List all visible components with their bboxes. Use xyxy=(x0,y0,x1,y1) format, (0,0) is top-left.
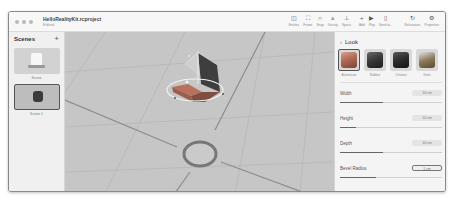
cube-icon xyxy=(341,52,357,68)
minimize-button[interactable] xyxy=(22,20,26,24)
material-swatch xyxy=(338,49,360,71)
toolbar-label: Space xyxy=(342,23,351,27)
sidebar-header: Scenes + xyxy=(9,32,64,46)
toolbar-snap-button[interactable]: ∩ Snap xyxy=(314,14,325,31)
material-label: Aluminium xyxy=(342,73,357,77)
material-chrome[interactable]: Chrome xyxy=(390,49,412,77)
scene-thumbnail xyxy=(14,48,60,74)
selected-cube xyxy=(167,51,224,102)
toolbar-label: Send to... xyxy=(379,23,393,27)
toolbar-label: Gravity xyxy=(328,23,338,27)
toolbar-send-button[interactable]: ▯ Send to... xyxy=(377,14,395,31)
material-aluminium[interactable]: Aluminium xyxy=(338,49,360,77)
height-property: Height 10 cm xyxy=(335,115,446,130)
material-picker: Aluminium Rubber Chrome Satin xyxy=(335,49,446,77)
toolbar-label: Properties xyxy=(424,23,439,27)
close-button[interactable] xyxy=(15,20,19,24)
toolbar-label: Frame xyxy=(303,23,312,27)
depth-slider[interactable] xyxy=(340,150,442,155)
material-rubber[interactable]: Rubber xyxy=(364,49,386,77)
depth-field[interactable]: 10 cm xyxy=(412,140,442,146)
toolbar: ◫ Entities ⛶ Frame ∩ Snap ⩓ Gravity ⊥ Sp… xyxy=(287,14,441,31)
toolbar-frame-button[interactable]: ⛶ Frame xyxy=(301,14,314,31)
toolbar-label: Play xyxy=(369,23,375,27)
toolbar-entities-button[interactable]: ◫ Entities xyxy=(287,14,301,31)
title-bar: HelloRealityKit.rcproject Edited ◫ Entit… xyxy=(9,12,445,32)
depth-property: Depth 10 cm xyxy=(335,140,446,155)
width-field[interactable]: 10 cm xyxy=(412,90,442,96)
scene-label: Scene xyxy=(14,76,59,80)
material-label: Chrome xyxy=(395,73,406,77)
toolbar-gravity-button[interactable]: ⩓ Gravity xyxy=(326,14,340,31)
inspector-panel: ‹ Look Aluminium Rubber Chrome xyxy=(334,32,446,192)
inspector-header: ‹ Look xyxy=(335,32,446,49)
sidebar-icon: ◫ xyxy=(291,14,297,23)
material-satin[interactable]: Satin xyxy=(416,49,438,77)
scene-label: Scene 1 xyxy=(14,112,59,116)
add-scene-button[interactable]: + xyxy=(54,35,59,43)
back-icon[interactable]: ‹ xyxy=(340,39,342,45)
depth-label: Depth xyxy=(340,141,352,146)
window-controls xyxy=(15,20,33,24)
toolbar-play-button[interactable]: ▶ Play xyxy=(367,14,377,31)
toolbar-label: Add xyxy=(359,23,365,27)
divider xyxy=(340,82,442,83)
anchor-plane-icon xyxy=(28,65,45,68)
gear-icon: ⚙ xyxy=(429,14,434,23)
scenes-sidebar: Scenes + Scene Scene 1 xyxy=(9,32,65,192)
cube-icon xyxy=(367,52,383,68)
height-field[interactable]: 10 cm xyxy=(412,115,442,121)
gravity-icon: ⩓ xyxy=(331,14,334,23)
toolbar-space-button[interactable]: ⊥ Space xyxy=(340,14,353,31)
height-label: Height xyxy=(340,116,353,121)
inspector-title: Look xyxy=(345,39,358,45)
bevel-radius-label: Bevel Radius xyxy=(340,166,367,171)
cube-icon xyxy=(419,52,435,68)
toolbar-behaviours-button[interactable]: ↻ Behaviours xyxy=(403,14,423,31)
frame-icon: ⛶ xyxy=(306,14,310,23)
material-label: Rubber xyxy=(370,73,380,77)
play-icon: ▶ xyxy=(369,14,374,23)
material-swatch xyxy=(416,49,438,71)
cube-icon xyxy=(393,52,409,68)
scene-item-selected[interactable]: Scene 1 xyxy=(14,84,59,116)
bevel-radius-property: Bevel Radius 1 cm xyxy=(335,165,446,180)
toolbar-label: Behaviours xyxy=(405,23,421,27)
toolbar-add-button[interactable]: + Add xyxy=(357,14,367,31)
cube-preview-icon xyxy=(33,91,43,102)
3d-viewport[interactable] xyxy=(65,32,334,192)
scene-item[interactable]: Scene xyxy=(14,48,59,80)
plus-icon: + xyxy=(360,14,364,23)
material-label: Satin xyxy=(423,73,430,77)
document-status: Edited xyxy=(43,22,101,27)
bevel-radius-field[interactable]: 1 cm xyxy=(412,165,442,171)
anchor-ring-icon xyxy=(184,142,216,166)
document-title-block: HelloRealityKit.rcproject Edited xyxy=(43,16,101,27)
scene-thumbnail xyxy=(14,84,60,110)
toolbar-label: Snap xyxy=(316,23,323,27)
toolbar-label: Entities xyxy=(289,23,299,27)
scene-canvas xyxy=(65,32,334,192)
width-slider[interactable] xyxy=(340,100,442,105)
width-label: Width xyxy=(340,91,352,96)
material-swatch xyxy=(390,49,412,71)
phone-icon: ▯ xyxy=(384,14,387,23)
sidebar-title: Scenes xyxy=(14,36,35,42)
behaviours-icon: ↻ xyxy=(410,14,415,23)
axes-icon: ⊥ xyxy=(344,14,349,23)
zoom-button[interactable] xyxy=(29,20,33,24)
material-swatch xyxy=(364,49,386,71)
width-property: Width 10 cm xyxy=(335,90,446,105)
toolbar-properties-button[interactable]: ⚙ Properties xyxy=(422,14,441,31)
app-window: HelloRealityKit.rcproject Edited ◫ Entit… xyxy=(8,11,446,192)
height-slider[interactable] xyxy=(340,125,442,130)
magnet-icon: ∩ xyxy=(318,14,322,23)
bevel-radius-slider[interactable] xyxy=(340,175,442,180)
